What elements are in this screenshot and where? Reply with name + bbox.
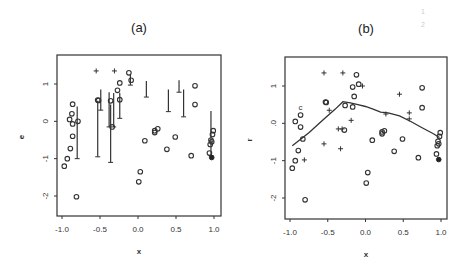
circle-marker xyxy=(354,73,359,78)
panel-a-residual-arrows xyxy=(75,75,214,163)
x-tick-label: 0.0 xyxy=(360,228,372,237)
circle-marker xyxy=(434,152,439,157)
panel-b-ylabel: r xyxy=(245,138,254,141)
y-tick-label: 1 xyxy=(269,83,278,88)
circle-marker xyxy=(420,86,425,91)
panel-b-frame xyxy=(285,57,447,219)
circle-marker xyxy=(364,181,369,186)
circle-marker xyxy=(370,138,375,143)
circle-marker xyxy=(67,117,72,122)
y-tick-label: 1 xyxy=(41,81,50,86)
x-tick-label: -1.0 xyxy=(55,225,69,234)
x-tick-label: 0.5 xyxy=(170,225,182,234)
panel-b-smooth-curve xyxy=(292,102,439,146)
circle-marker xyxy=(70,102,75,107)
circle-marker xyxy=(136,180,141,185)
y-tick-label: 0 xyxy=(41,119,50,124)
circle-marker xyxy=(138,169,143,174)
circle-marker xyxy=(392,149,397,154)
panel-a-xlabel: x xyxy=(137,247,142,256)
circle-marker xyxy=(165,147,170,152)
circle-marker xyxy=(62,164,67,169)
circle-marker xyxy=(193,102,198,107)
circle-marker xyxy=(68,146,73,151)
circle-marker xyxy=(74,194,79,199)
panel-a-title: (a) xyxy=(131,20,147,35)
x-tick-label: -0.5 xyxy=(93,225,107,234)
x-tick-label: 0.0 xyxy=(132,225,144,234)
circle-marker xyxy=(298,125,303,130)
x-tick-label: -0.5 xyxy=(321,228,335,237)
circle-marker xyxy=(70,112,75,117)
circle-marker xyxy=(298,113,303,118)
circle-marker xyxy=(70,134,75,139)
circle-marker xyxy=(352,94,357,99)
panel-a-ylabel: e xyxy=(17,134,26,139)
y-tick-label: .0 xyxy=(269,119,278,126)
x-tick-label: 0.5 xyxy=(398,228,410,237)
circle-marker xyxy=(365,170,370,175)
smooth-curve xyxy=(292,102,439,146)
x-tick-label: 1.0 xyxy=(435,228,447,237)
circle-marker xyxy=(416,155,421,160)
circle-marker xyxy=(303,198,308,203)
panel-b: (b) -1.0-0.50.00.51.01.0-1-2 c x r xyxy=(245,21,447,259)
circle-marker xyxy=(115,88,120,93)
figure-canvas: (a) -1.0-0.50.00.51.010-1-2 x e (b) -1.0… xyxy=(0,0,468,268)
circle-marker xyxy=(420,105,425,110)
circle-marker xyxy=(290,166,295,171)
panel-b-points: c xyxy=(290,70,443,202)
circle-marker xyxy=(70,122,75,127)
y-tick-label: -1 xyxy=(269,157,278,165)
y-tick-label: -1 xyxy=(41,155,50,163)
filled-marker xyxy=(209,155,214,160)
panel-a-frame xyxy=(57,55,221,216)
circle-marker xyxy=(127,71,132,76)
circle-marker xyxy=(189,153,194,158)
circle-marker xyxy=(293,119,298,124)
circle-marker xyxy=(350,105,355,110)
panel-a-points xyxy=(62,68,216,199)
circle-marker xyxy=(193,84,198,89)
panel-b-xlabel: x xyxy=(364,250,369,259)
circle-marker xyxy=(293,158,298,163)
circle-marker xyxy=(117,81,122,86)
filled-marker xyxy=(436,157,441,162)
circle-marker xyxy=(143,138,148,143)
x-tick-label: -1.0 xyxy=(283,228,297,237)
circle-marker xyxy=(76,119,81,124)
c-marker: c xyxy=(299,103,303,112)
page-mark-1: 1 xyxy=(421,8,425,15)
y-tick-label: -2 xyxy=(41,192,50,200)
panel-b-title: (b) xyxy=(358,21,374,36)
y-tick-label: -2 xyxy=(269,194,278,202)
circle-marker xyxy=(350,85,355,90)
circle-marker xyxy=(296,148,301,153)
circle-marker xyxy=(343,103,348,108)
circle-marker xyxy=(400,137,405,142)
circle-marker xyxy=(173,135,178,140)
page-mark-2: 2 xyxy=(421,21,425,28)
circle-marker xyxy=(129,78,134,83)
circle-marker xyxy=(65,156,70,161)
panel-a: (a) -1.0-0.50.00.51.010-1-2 x e xyxy=(17,20,221,256)
x-tick-label: 1.0 xyxy=(208,225,220,234)
